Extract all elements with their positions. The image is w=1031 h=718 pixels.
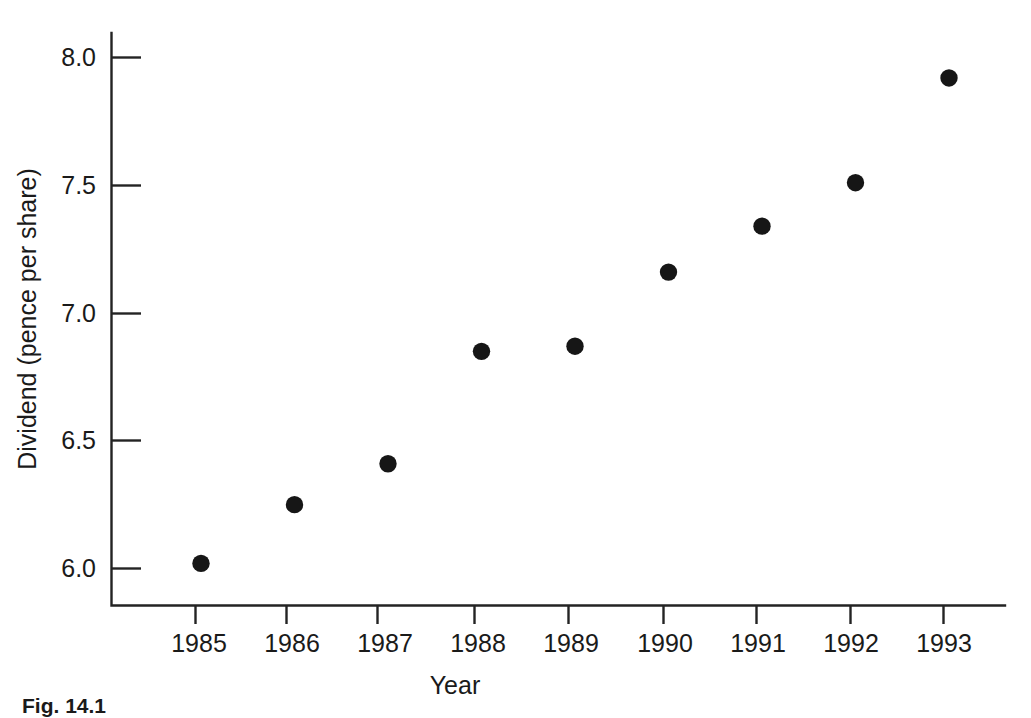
y-axis-title: Dividend (pence per share): [13, 168, 41, 470]
data-point: [753, 217, 770, 234]
data-point: [473, 343, 490, 360]
data-point: [847, 174, 864, 191]
y-tick-label-7.0: 7.0: [61, 299, 96, 327]
x-tick-label-1992: 1992: [823, 629, 879, 657]
data-point: [660, 263, 677, 280]
x-tick-label-1993: 1993: [916, 629, 972, 657]
x-tick-label-1986: 1986: [264, 629, 320, 657]
x-tick-label-1990: 1990: [637, 629, 693, 657]
y-tick-label-8.0: 8.0: [61, 43, 96, 71]
x-tick-label-1987: 1987: [357, 629, 413, 657]
data-point: [566, 338, 583, 355]
y-tick-label-6.0: 6.0: [61, 554, 96, 582]
x-axis-tick-labels: 1985 1986 1987 1988 1989 1990 1991 1992 …: [171, 629, 972, 657]
x-tick-label-1989: 1989: [543, 629, 599, 657]
data-point: [379, 455, 396, 472]
figure-caption: Fig. 14.1: [22, 694, 106, 718]
x-tick-label-1991: 1991: [730, 629, 786, 657]
x-axis-title: Year: [430, 671, 481, 699]
data-point: [192, 555, 209, 572]
x-tick-label-1985: 1985: [171, 629, 227, 657]
data-point: [940, 69, 957, 86]
y-axis-ticks: [112, 58, 142, 569]
y-tick-label-6.5: 6.5: [61, 426, 96, 454]
y-axis-tick-labels: 8.0 7.5 7.0 6.5 6.0: [61, 43, 96, 582]
y-tick-label-7.5: 7.5: [61, 171, 96, 199]
data-point: [286, 496, 303, 513]
x-axis-ticks: [196, 606, 944, 625]
data-point-series: [192, 69, 957, 572]
x-tick-label-1988: 1988: [450, 629, 506, 657]
axis-spine: [112, 33, 1006, 606]
